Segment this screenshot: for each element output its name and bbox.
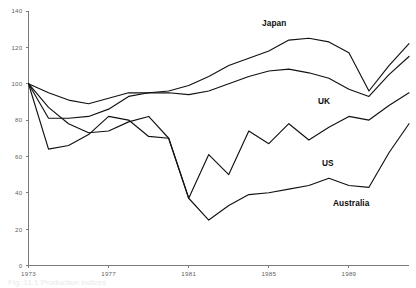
figure-caption: Fig. 11.1 Production indices [0,278,416,288]
x-tick-label: 1989 [332,270,366,277]
x-tick-label: 1977 [92,270,126,277]
series-label-australia: Australia [333,199,369,208]
series-line-us [29,84,410,199]
x-tick-label: 1981 [172,270,206,277]
series-line-japan [29,38,410,103]
y-tick-label: 140 [1,7,23,14]
y-tick-label: 120 [1,44,23,51]
series-line-uk [29,56,410,118]
x-tick-label: 1985 [252,270,286,277]
y-tick-label: 80 [1,116,23,123]
series-label-uk: UK [318,97,330,106]
chart-series-lines [29,38,410,220]
y-tick-label: 60 [1,153,23,160]
y-tick-label: 40 [1,189,23,196]
y-tick-label: 100 [1,80,23,87]
y-tick-label: 20 [1,226,23,233]
series-label-us: US [322,159,334,168]
chart-axes [26,11,409,268]
series-label-japan: Japan [262,19,286,28]
y-tick-label: 0 [1,262,23,269]
x-tick-label: 1973 [12,270,46,277]
line-chart-plot [0,0,416,288]
chart-container: 020406080100120140 19731977198119851989 … [0,0,416,288]
